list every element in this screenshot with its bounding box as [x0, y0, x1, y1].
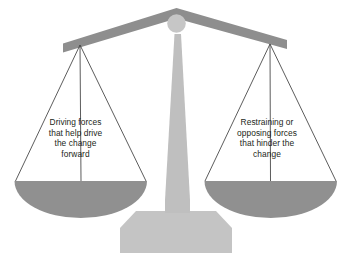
right-string-outer-left	[205, 44, 270, 181]
balance-scale-diagram: Driving forces that help drive the chang…	[0, 0, 345, 254]
scale-base-foot	[120, 211, 232, 253]
left-string-outer-left	[16, 45, 81, 181]
left-string-outer-right	[80, 45, 146, 181]
pivot-knob-icon	[167, 14, 186, 33]
right-string-center	[270, 44, 271, 181]
right-string-outer-right	[270, 44, 336, 181]
scale-stem-column	[165, 34, 190, 213]
left-string-center	[80, 45, 81, 181]
left-pan	[15, 181, 148, 218]
right-pan	[205, 181, 338, 218]
right-pan-label: Restraining or opposing forces that hind…	[218, 117, 316, 159]
left-pan-label: Driving forces that help drive the chang…	[28, 117, 123, 159]
